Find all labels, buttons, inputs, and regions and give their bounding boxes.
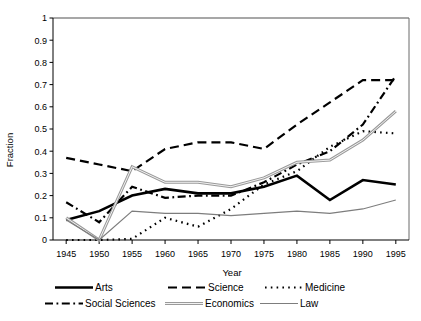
- line-chart: 00.10.20.30.40.50.60.70.80.91 1945195019…: [0, 0, 421, 321]
- chart-container: 00.10.20.30.40.50.60.70.80.91 1945195019…: [0, 0, 421, 321]
- series-line-science: [66, 80, 396, 171]
- legend-label-arts: Arts: [95, 282, 113, 293]
- x-tick-label: 1965: [188, 249, 208, 259]
- x-tick-label: 1980: [287, 249, 307, 259]
- series-line-economics-core: [66, 111, 396, 240]
- y-tick-label: 0.6: [34, 102, 47, 112]
- legend-label-law: Law: [300, 298, 319, 309]
- y-tick-label: 0.3: [34, 169, 47, 179]
- series-line-economics: [66, 111, 396, 240]
- y-tick-label: 0: [42, 235, 47, 245]
- y-tick-label: 0.2: [34, 191, 47, 201]
- x-tick-label: 1955: [122, 249, 142, 259]
- legend-label-social-sciences: Social Sciences: [85, 298, 156, 309]
- x-axis-tick-marks: [66, 240, 396, 244]
- x-tick-label: 1995: [386, 249, 406, 259]
- legend-label-economics: Economics: [205, 298, 254, 309]
- y-tick-label: 0.1: [34, 213, 47, 223]
- y-tick-label: 0.4: [34, 147, 47, 157]
- y-tick-label: 0.5: [34, 124, 47, 134]
- x-tick-label: 1975: [254, 249, 274, 259]
- x-tick-label: 1950: [89, 249, 109, 259]
- x-axis-tick-labels: 1945195019551960196519701975198019851990…: [56, 249, 406, 259]
- legend-label-medicine: Medicine: [305, 282, 345, 293]
- series-lines: [66, 76, 396, 240]
- legend-label-science: Science: [208, 282, 244, 293]
- y-tick-label: 0.9: [34, 36, 47, 46]
- x-tick-label: 1990: [353, 249, 373, 259]
- y-tick-label: 1: [42, 13, 47, 23]
- y-tick-label: 0.8: [34, 58, 47, 68]
- y-tick-label: 0.7: [34, 80, 47, 90]
- x-tick-label: 1970: [221, 249, 241, 259]
- x-axis-title: Year: [222, 267, 241, 278]
- y-axis-tick-marks: [50, 18, 54, 240]
- y-axis-tick-labels: 00.10.20.30.40.50.60.70.80.91: [34, 13, 47, 245]
- series-line-arts: [66, 176, 396, 220]
- x-tick-label: 1945: [56, 249, 76, 259]
- chart-legend: ArtsScienceMedicineSocial SciencesEconom…: [45, 282, 345, 309]
- x-tick-label: 1985: [320, 249, 340, 259]
- y-axis-title: Fraction: [4, 133, 15, 167]
- x-tick-label: 1960: [155, 249, 175, 259]
